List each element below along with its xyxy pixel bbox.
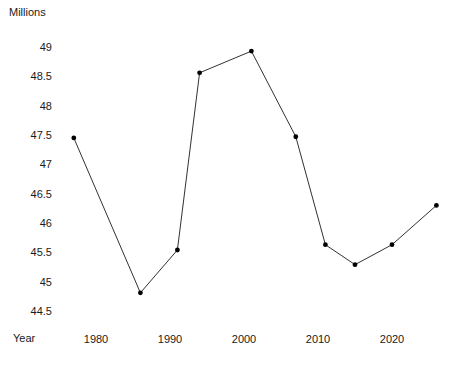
plot-area: [0, 0, 453, 368]
data-point: [249, 49, 254, 54]
data-point: [353, 262, 358, 267]
data-point: [138, 290, 143, 295]
data-point: [71, 136, 76, 141]
data-point: [434, 203, 439, 208]
line-chart: Millions Year 4948.54847.54746.54645.545…: [0, 0, 453, 368]
data-point: [293, 134, 298, 139]
data-point: [390, 242, 395, 247]
data-point: [323, 242, 328, 247]
data-point: [197, 70, 202, 75]
series-line-millions: [74, 51, 437, 293]
series-markers: [71, 49, 438, 296]
data-point: [175, 248, 180, 253]
